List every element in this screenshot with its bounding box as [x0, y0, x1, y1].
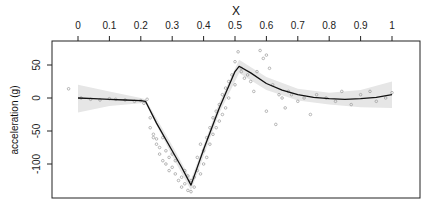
y-tick-label: 50 [31, 59, 42, 71]
data-point [199, 143, 202, 146]
y-tick-label: -50 [31, 123, 42, 138]
data-point [202, 163, 205, 166]
data-point [249, 80, 252, 83]
data-point [146, 98, 149, 101]
data-point [165, 163, 168, 166]
data-point [152, 133, 155, 136]
plot-frame [52, 41, 420, 198]
data-point [259, 49, 262, 52]
observation-points [67, 49, 393, 193]
chart-canvas: 00.10.20.30.40.50.60.70.80.91 500-50-100… [0, 0, 441, 209]
data-point [218, 120, 221, 123]
data-point [253, 90, 256, 93]
data-point [171, 166, 174, 169]
data-point [212, 133, 215, 136]
data-point [155, 138, 158, 141]
data-point [158, 146, 161, 149]
data-point [168, 156, 171, 159]
x-tick-label: 0.6 [259, 20, 273, 31]
data-point [309, 113, 312, 116]
data-point [187, 189, 190, 192]
data-point [284, 107, 287, 110]
y-tick-label: -100 [31, 154, 42, 174]
x-tick-label: 0.5 [228, 20, 242, 31]
data-point [275, 123, 278, 126]
data-point [184, 183, 187, 186]
data-point [281, 97, 284, 100]
data-point [190, 190, 193, 193]
data-point [152, 136, 155, 139]
x-tick-label: 0.9 [354, 20, 368, 31]
x-tick-label: 0.7 [291, 20, 305, 31]
y-axis-title: acceleration (g) [9, 86, 20, 155]
data-point [162, 159, 165, 162]
fitted-curve [78, 66, 392, 185]
x-tick-label: 0.3 [165, 20, 179, 31]
data-point [180, 186, 183, 189]
y-tick-label: 0 [31, 95, 42, 101]
data-point [149, 117, 152, 120]
data-point [265, 54, 268, 57]
x-axis-title: X [232, 4, 240, 18]
data-point [158, 153, 161, 156]
data-point [243, 77, 246, 80]
data-point [196, 156, 199, 159]
x-axis-top: 00.10.20.30.40.50.60.70.80.91 [75, 20, 395, 41]
data-point [227, 97, 230, 100]
data-point [168, 169, 171, 172]
data-point [174, 173, 177, 176]
data-point [165, 150, 168, 153]
y-axis-left: 500-50-100 [31, 59, 52, 174]
data-point [155, 143, 158, 146]
data-point [224, 107, 227, 110]
data-point [205, 156, 208, 159]
data-point [215, 126, 218, 129]
data-point [67, 88, 70, 91]
data-point [177, 179, 180, 182]
data-point [180, 176, 183, 179]
data-point [193, 186, 196, 189]
data-point [199, 173, 202, 176]
confidence-band [78, 60, 392, 191]
x-tick-label: 0.4 [197, 20, 211, 31]
data-point [262, 57, 265, 60]
data-point [234, 60, 237, 63]
data-point [268, 67, 271, 70]
data-point [265, 110, 268, 113]
data-point [149, 126, 152, 129]
data-point [221, 113, 224, 116]
x-tick-label: 0 [75, 20, 81, 31]
data-point [234, 84, 237, 87]
data-point [237, 51, 240, 54]
x-tick-label: 1 [389, 20, 395, 31]
x-tick-label: 0.8 [322, 20, 336, 31]
x-tick-label: 0.1 [102, 20, 116, 31]
x-tick-label: 0.2 [134, 20, 148, 31]
data-point [209, 143, 212, 146]
